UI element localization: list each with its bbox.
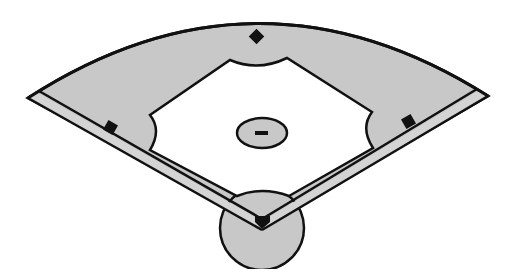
pitching-rubber — [255, 131, 268, 135]
baseball-field-diagram — [0, 0, 514, 269]
